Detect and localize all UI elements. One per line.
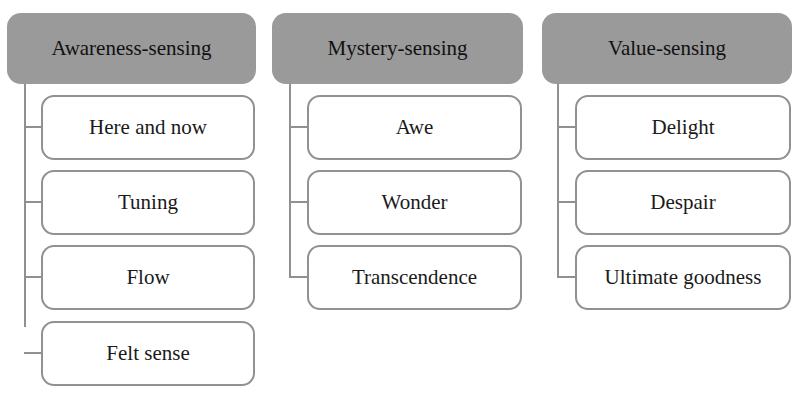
item-label: Here and now <box>89 115 207 140</box>
branch-connector <box>557 201 575 203</box>
item-tuning: Tuning <box>41 170 255 235</box>
item-here-and-now: Here and now <box>41 95 255 160</box>
item-label: Tuning <box>118 190 178 215</box>
item-transcendence: Transcendence <box>307 245 522 310</box>
item-wonder: Wonder <box>307 170 522 235</box>
branch-connector <box>557 126 575 128</box>
column-mystery-sensing: Mystery-sensing Awe Wonder Transcendence <box>272 13 523 393</box>
tree-spine <box>289 84 291 277</box>
item-awe: Awe <box>307 95 522 160</box>
branch-connector <box>24 201 41 203</box>
item-label: Delight <box>652 115 715 140</box>
branch-connector <box>24 126 41 128</box>
tree-spine <box>557 84 559 277</box>
category-title: Mystery-sensing <box>328 36 468 61</box>
item-ultimate-goodness: Ultimate goodness <box>575 245 791 310</box>
item-label: Felt sense <box>106 341 189 366</box>
category-header-mystery-sensing: Mystery-sensing <box>272 13 523 84</box>
item-label: Despair <box>650 190 715 215</box>
item-label: Flow <box>126 265 169 290</box>
item-label: Wonder <box>382 190 448 215</box>
item-label: Transcendence <box>352 265 477 290</box>
category-header-awareness-sensing: Awareness-sensing <box>7 13 256 84</box>
item-delight: Delight <box>575 95 791 160</box>
branch-connector <box>289 201 307 203</box>
category-header-value-sensing: Value-sensing <box>542 13 792 84</box>
column-awareness-sensing: Awareness-sensing Here and now Tuning Fl… <box>7 13 256 393</box>
branch-connector <box>289 276 307 278</box>
tree-spine <box>24 84 26 327</box>
column-value-sensing: Value-sensing Delight Despair Ultimate g… <box>542 13 792 393</box>
branch-connector <box>24 276 41 278</box>
category-title: Value-sensing <box>608 36 726 61</box>
branch-connector <box>24 352 41 354</box>
branch-connector <box>289 126 307 128</box>
category-title: Awareness-sensing <box>51 36 211 61</box>
item-label: Ultimate goodness <box>605 265 762 290</box>
item-flow: Flow <box>41 245 255 310</box>
item-label: Awe <box>396 115 434 140</box>
item-felt-sense: Felt sense <box>41 321 255 386</box>
item-despair: Despair <box>575 170 791 235</box>
branch-connector <box>557 276 575 278</box>
